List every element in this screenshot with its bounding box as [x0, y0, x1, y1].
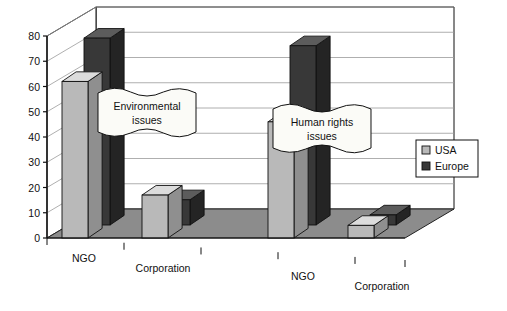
- y-axis-tick-label: 80: [28, 30, 40, 42]
- bar-front-face: [62, 81, 88, 238]
- legend-swatch: [422, 162, 430, 170]
- banner-line-2: issues: [307, 130, 337, 142]
- y-axis-tick-label: 0: [34, 232, 40, 244]
- y-axis-tick-label: 10: [28, 207, 40, 219]
- banner-line-1: Human rights: [291, 116, 353, 128]
- y-axis: 01020304050607080: [28, 30, 47, 244]
- y-axis-tick-label: 30: [28, 156, 40, 168]
- banner-shape: [273, 104, 371, 153]
- x-axis: NGOCorporationNGOCorporation: [47, 238, 410, 292]
- bar-front-face: [142, 195, 168, 238]
- y-axis-tick-label: 20: [28, 182, 40, 194]
- bar-chart-3d: 01020304050607080 NGOCorporationNGOCorpo…: [0, 0, 507, 311]
- chart-container: 01020304050607080 NGOCorporationNGOCorpo…: [0, 0, 507, 311]
- banner-line-1: Environmental: [113, 100, 180, 112]
- x-axis-category-label: NGO: [291, 270, 315, 282]
- bar-usa-1: [142, 185, 182, 238]
- legend-item-usa[interactable]: USA: [422, 144, 457, 156]
- bar-usa-0: [62, 72, 102, 238]
- bar-front-face: [348, 225, 374, 238]
- legend-label: Europe: [435, 160, 469, 172]
- banner-shape: [98, 88, 196, 137]
- y-axis-tick-label: 70: [28, 55, 40, 67]
- x-axis-category-label: Corporation: [136, 262, 191, 274]
- legend-label: USA: [435, 144, 457, 156]
- legend-swatch: [422, 146, 430, 154]
- x-axis-category-label: Corporation: [355, 280, 410, 292]
- x-axis-category-label: NGO: [72, 252, 96, 264]
- y-axis-tick-label: 40: [28, 131, 40, 143]
- chart-legend: USAEurope: [416, 140, 478, 177]
- y-axis-tick-label: 50: [28, 106, 40, 118]
- human-rights-banner: Human rightsissues: [273, 104, 371, 153]
- environmental-issues-banner: Environmentalissues: [98, 88, 196, 137]
- y-axis-tick-label: 60: [28, 81, 40, 93]
- legend-item-europe[interactable]: Europe: [422, 160, 469, 172]
- banner-line-2: issues: [132, 114, 162, 126]
